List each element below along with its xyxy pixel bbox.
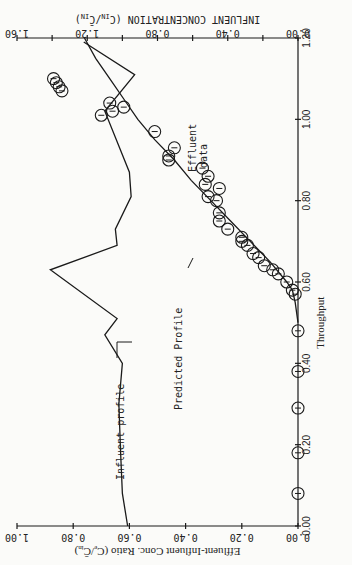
- x-axis-title: Throughput: [314, 297, 326, 349]
- y2-tick-label: 1.20: [75, 28, 99, 39]
- y-tick-label: 1.00: [5, 532, 29, 543]
- axes: 0.000.200.400.600.801.001.200.000.200.40…: [5, 12, 326, 558]
- x-tick-label: 0.40: [301, 353, 312, 373]
- y2-tick-label: 1.60: [5, 28, 29, 39]
- predicted-profile-annotation: Predicted Profile: [173, 308, 184, 410]
- y-tick-label: 0.80: [61, 532, 85, 543]
- x-tick-label: 0.80: [301, 190, 312, 210]
- influent-profile-annotation: Influent profile: [115, 384, 126, 480]
- effluent-annotation: Effluentdata: [187, 124, 209, 172]
- y-tick-label: 0.60: [117, 532, 141, 543]
- y2-tick-label: 0.80: [145, 28, 169, 39]
- y-tick-label: 0.40: [174, 532, 198, 543]
- series: [48, 38, 304, 526]
- effluent-data-points: [48, 73, 304, 500]
- y2-axis-title: INFLUENT CONCENTRATION (CIN/C̄IN): [75, 12, 260, 26]
- annotations: EffluentdataPredicted ProfileInfluent pr…: [115, 124, 209, 480]
- predicted-profile-line: [84, 38, 298, 323]
- rotated-chart: 0.000.200.400.600.801.001.200.000.200.40…: [0, 0, 352, 565]
- y-tick-label: 0.20: [230, 532, 254, 543]
- y-tick-label: 0.00: [286, 532, 310, 543]
- y2-tick-label: 0.00: [286, 28, 310, 39]
- x-tick-label: 0.20: [301, 434, 312, 454]
- x-tick-label: 0.60: [301, 272, 312, 292]
- y-axis-title: Effluent-Influent Conc. Ratio (Ce/C̄in): [74, 544, 240, 558]
- x-tick-label: 1.00: [301, 109, 312, 129]
- y2-tick-label: 0.40: [216, 28, 240, 39]
